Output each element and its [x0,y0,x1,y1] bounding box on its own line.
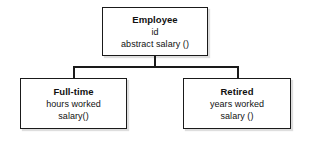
class-member-employee-1: abstract salary () [121,38,189,50]
class-member-retired-1: salary () [221,110,254,122]
class-member-retired-0: years worked [210,98,264,110]
class-name-fulltime: Full-time [53,86,93,98]
uml-class-diagram: Employee id abstract salary () Full-time… [0,0,309,142]
class-member-employee-0: id [151,26,158,38]
class-box-employee[interactable]: Employee id abstract salary () [102,7,208,56]
class-member-fulltime-0: hours worked [46,98,101,110]
class-name-retired: Retired [220,86,253,98]
class-box-retired[interactable]: Retired years worked salary () [183,78,291,129]
class-member-fulltime-1: salary() [58,110,88,122]
class-box-fulltime[interactable]: Full-time hours worked salary() [20,78,127,129]
connector-branch-bar [73,66,239,68]
class-name-employee: Employee [132,14,177,26]
